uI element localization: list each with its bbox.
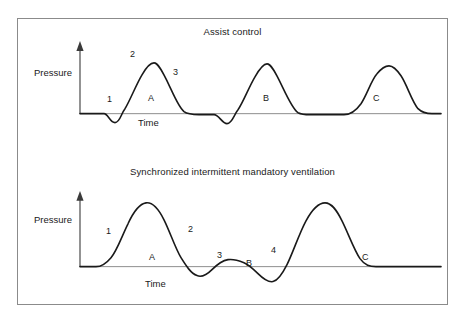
annotation-2: 2	[130, 49, 135, 59]
y-axis-label-simv: Pressure	[34, 214, 72, 225]
assist-control-plot	[18, 19, 447, 162]
annotation-3: 3	[217, 250, 222, 260]
annotation-1: 1	[106, 226, 111, 236]
pressure-waveform-simv	[80, 202, 441, 281]
y-axis-arrow-icon	[76, 41, 83, 51]
y-axis-label-assist-control: Pressure	[34, 67, 72, 78]
annotation-breath-b: B	[263, 93, 269, 103]
simv-plot	[18, 162, 447, 305]
annotation-1: 1	[107, 94, 112, 104]
x-axis-label-simv: Time	[145, 278, 166, 289]
panel-assist-control: Assist control Pressure Time 1 2 3 A B C	[18, 19, 447, 162]
y-axis-arrow-icon	[76, 190, 83, 200]
annotation-breath-a: A	[148, 93, 154, 103]
annotation-2: 2	[188, 224, 193, 234]
figure-frame: Assist control Pressure Time 1 2 3 A B C…	[17, 18, 448, 305]
x-axis-label-assist-control: Time	[138, 117, 159, 128]
annotation-breath-a: A	[149, 252, 155, 262]
panel-simv: Synchronized intermittent mandatory vent…	[18, 162, 447, 305]
pressure-waveform-assist-control	[80, 63, 441, 124]
annotation-breath-c: C	[373, 93, 380, 103]
annotation-4: 4	[271, 245, 276, 255]
annotation-3: 3	[173, 67, 178, 77]
annotation-breath-c: C	[362, 252, 369, 262]
annotation-breath-b: B	[246, 258, 252, 268]
